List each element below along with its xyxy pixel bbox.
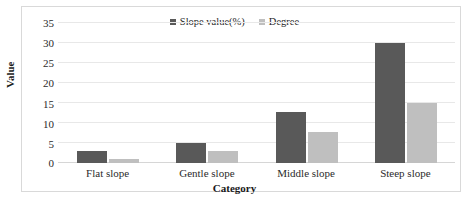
- y-axis-title-text: Value: [4, 74, 16, 88]
- x-tick-flat-slope: Flat slope: [58, 166, 157, 182]
- y-tick-25: 25: [24, 58, 54, 69]
- y-tick-30: 30: [24, 38, 54, 49]
- bar-slope-value-middle-slope: [276, 112, 306, 163]
- y-tick-35: 35: [24, 18, 54, 29]
- y-axis-title: Value: [4, 60, 16, 74]
- x-tick-middle-slope: Middle slope: [257, 166, 356, 182]
- y-tick-0: 0: [24, 158, 54, 169]
- bar-slope-value-steep-slope: [375, 43, 405, 163]
- y-tick-20: 20: [24, 78, 54, 89]
- x-axis-tick-labels: Flat slope Gentle slope Middle slope Ste…: [58, 166, 455, 182]
- y-tick-5: 5: [24, 139, 54, 150]
- bar-group-steep-slope: [356, 22, 455, 163]
- x-axis-title: Category: [0, 182, 469, 194]
- bar-group-gentle-slope: [157, 22, 256, 163]
- x-tick-gentle-slope: Gentle slope: [157, 166, 256, 182]
- bar-degree-gentle-slope: [208, 151, 238, 163]
- bar-group-flat-slope: [58, 22, 157, 163]
- y-axis-tick-labels: 35 30 25 20 15 10 5 0: [22, 22, 54, 163]
- bar-slope-value-gentle-slope: [176, 143, 206, 163]
- y-tick-15: 15: [24, 99, 54, 110]
- bar-group-middle-slope: [257, 22, 356, 163]
- bar-degree-middle-slope: [308, 132, 338, 163]
- bar-chart: Slope value(%) Degree 35 30 25 20 15 10 …: [0, 0, 469, 202]
- bars-layer: [58, 22, 455, 163]
- y-tick-10: 10: [24, 119, 54, 130]
- x-tick-steep-slope: Steep slope: [356, 166, 455, 182]
- bar-degree-steep-slope: [407, 103, 437, 163]
- bar-slope-value-flat-slope: [77, 151, 107, 163]
- bar-degree-flat-slope: [109, 159, 139, 163]
